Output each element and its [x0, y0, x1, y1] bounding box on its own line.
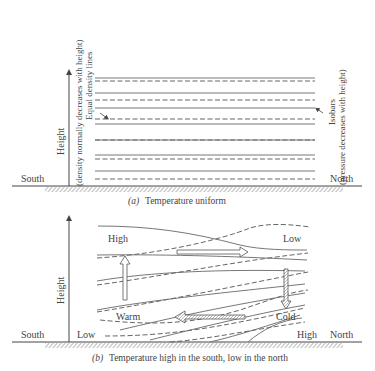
isobar-pointer-arrow [317, 109, 323, 113]
north-label: North [330, 173, 353, 184]
isobars-label: Isobars [327, 99, 337, 125]
caption-a: Temperature uniform [145, 196, 226, 206]
low-bottom-label: Low [77, 329, 96, 340]
warm-rising-arrow [120, 256, 130, 300]
atmosphere-diagram: Height (density normally decreases with … [0, 0, 375, 371]
low-top-label: Low [283, 233, 302, 244]
height-axis-label: Height [55, 277, 66, 304]
north-label: North [330, 329, 353, 340]
high-top-label: High [108, 233, 128, 244]
warm-label: Warm [116, 311, 140, 322]
height-axis-label: Height [55, 128, 66, 155]
density-pointer-arrow [100, 113, 107, 118]
equal-density-label: Equal density lines [84, 51, 94, 120]
caption-a-prefix: (a) [128, 196, 139, 207]
density-curves [97, 224, 310, 342]
isobar-curves [97, 226, 307, 342]
panel-b: High Low Warm Cold Low High Height South… [12, 218, 362, 364]
panel-a: Height (density normally decreases with … [12, 40, 362, 207]
cold-sinking-arrow [281, 269, 291, 309]
south-label: South [21, 173, 44, 184]
equal-density-lines [95, 81, 315, 179]
density-note: (density normally decreases with height) [74, 40, 84, 186]
isobar-lines [95, 78, 315, 171]
ground-hatch [45, 343, 343, 348]
caption-b: Temperature high in the south, low in th… [109, 353, 288, 363]
caption-b-prefix: (b) [92, 353, 103, 364]
cold-label: Cold [276, 311, 295, 322]
pressure-note: (pressure decreases with height) [337, 69, 347, 185]
ground-hatch [45, 187, 343, 192]
high-bottom-label: High [297, 329, 317, 340]
south-label: South [21, 329, 44, 340]
